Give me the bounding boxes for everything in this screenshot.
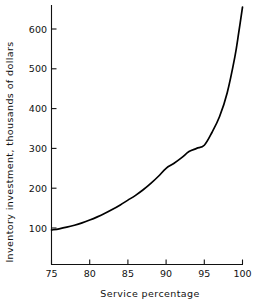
x-axis-ticks — [52, 260, 243, 265]
x-tick-label-95: 95 — [198, 268, 210, 279]
chart-figure: 600 500 400 300 200 100 75 80 85 90 95 1… — [0, 0, 257, 305]
x-tick-label-90: 90 — [160, 268, 172, 279]
y-axis-tick-labels: 600 500 400 300 200 100 — [29, 24, 47, 234]
y-tick-label-600: 600 — [29, 24, 47, 35]
chart-plot-area: 600 500 400 300 200 100 75 80 85 90 95 1… — [0, 0, 257, 305]
data-series-line — [52, 7, 243, 230]
y-tick-label-300: 300 — [29, 143, 47, 154]
x-axis-tick-labels: 75 80 85 90 95 100 — [45, 268, 251, 279]
y-tick-label-200: 200 — [29, 183, 47, 194]
x-tick-label-80: 80 — [84, 268, 96, 279]
y-tick-label-100: 100 — [29, 223, 47, 234]
axis-spines — [52, 5, 244, 265]
y-tick-label-500: 500 — [29, 63, 47, 74]
x-tick-label-75: 75 — [45, 268, 57, 279]
y-tick-label-400: 400 — [29, 103, 47, 114]
y-axis-ticks — [52, 29, 57, 228]
x-axis-title: Service percentage — [100, 288, 199, 299]
x-tick-label-100: 100 — [233, 268, 251, 279]
y-axis-title: Inventory investment, thousands of dolla… — [4, 41, 15, 262]
x-tick-label-85: 85 — [122, 268, 134, 279]
